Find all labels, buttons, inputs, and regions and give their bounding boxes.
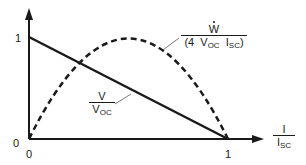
power-den-close: ): [240, 36, 244, 48]
y-axis-arrow-icon: [25, 8, 33, 20]
x-axis-label: I ISC: [273, 123, 295, 152]
power-den-open: (4 V: [184, 36, 207, 48]
x-tick-1: 1: [225, 149, 231, 160]
voltage-leader-line: [115, 94, 131, 104]
x-axis-arrow-icon: [252, 135, 264, 143]
power-series-label: W (4 VOC ISC): [181, 23, 247, 52]
x-label-den-sub: SC: [280, 141, 291, 150]
power-den-mid: I: [220, 36, 229, 48]
power-leader-line: [163, 38, 179, 50]
power-label-denominator: (4 VOC ISC): [184, 36, 243, 52]
power-den-sub1: OC: [208, 41, 220, 50]
y-tick-0: 0: [13, 138, 19, 149]
power-den-sub2: SC: [229, 41, 240, 50]
voltage-label-denominator: VOC: [92, 103, 111, 119]
x-label-numerator: I: [282, 123, 285, 135]
voltage-label-den-main: V: [92, 103, 99, 115]
y-tick-1: 1: [15, 33, 21, 44]
voltage-label-numerator: V: [98, 90, 105, 102]
series-voltage-line: [29, 37, 228, 139]
power-label-numerator: W: [209, 23, 219, 35]
voltage-series-label: V VOC: [89, 90, 115, 119]
x-label-denominator: ISC: [277, 136, 291, 152]
x-tick-0: 0: [26, 149, 32, 160]
voltage-label-den-sub: OC: [100, 108, 112, 117]
chart-plot: [0, 0, 306, 165]
